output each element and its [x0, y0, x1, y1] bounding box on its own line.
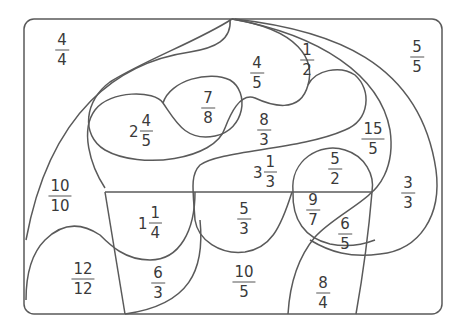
- numerator: 5: [410, 39, 424, 56]
- numerator: 4: [55, 32, 69, 49]
- denominator: 5: [410, 59, 424, 76]
- fraction-label-r15: 97: [306, 192, 320, 229]
- fraction-label-r7: 83: [257, 112, 271, 149]
- numerator: 1: [149, 205, 163, 222]
- fraction-label-r1: 44: [55, 32, 69, 69]
- fraction-stack: 83: [257, 112, 271, 149]
- numerator: 6: [151, 265, 165, 282]
- fraction-label-r5: 78: [201, 90, 215, 127]
- fraction-label-r19: 105: [232, 264, 255, 301]
- denominator: 7: [306, 212, 320, 229]
- fraction-stack: 1010: [48, 178, 71, 215]
- fraction-label-r12: 1010: [48, 178, 71, 215]
- denominator: 3: [151, 285, 165, 302]
- curve-inner-loop: [89, 19, 310, 160]
- fraction-stack: 44: [55, 32, 69, 69]
- denominator: 4: [55, 52, 69, 69]
- fraction-stack: 52: [328, 151, 342, 188]
- fraction-label-r11: 33: [401, 175, 415, 212]
- numerator: 1: [300, 42, 314, 59]
- numerator: 8: [257, 112, 271, 129]
- denominator: 5: [338, 236, 352, 253]
- fraction-label-r14: 53: [237, 201, 251, 238]
- fraction-stack: 1212: [71, 261, 94, 298]
- denominator: 5: [237, 284, 251, 301]
- numerator: 9: [306, 192, 320, 209]
- fraction-stack: 105: [232, 264, 255, 301]
- whole-number: 1: [138, 214, 148, 232]
- numerator: 1: [264, 154, 278, 171]
- fraction-stack: 12: [300, 42, 314, 79]
- denominator: 5: [250, 75, 264, 92]
- fraction-label-r20: 84: [316, 275, 330, 312]
- whole-number: 2: [129, 122, 139, 140]
- fraction-stack: 97: [306, 192, 320, 229]
- fraction-label-r3: 12: [300, 42, 314, 79]
- fraction-label-r9: 313: [253, 154, 277, 191]
- fraction-label-r8: 155: [361, 121, 384, 158]
- denominator: 12: [71, 281, 94, 298]
- numerator: 5: [237, 201, 251, 218]
- denominator: 3: [401, 195, 415, 212]
- denominator: 5: [366, 141, 380, 158]
- fraction-stack: 84: [316, 275, 330, 312]
- numerator: 8: [316, 275, 330, 292]
- fraction-stack: 53: [237, 201, 251, 238]
- fraction-stack: 63: [151, 265, 165, 302]
- denominator: 3: [237, 221, 251, 238]
- denominator: 4: [149, 225, 163, 242]
- fraction-label-r4: 45: [250, 55, 264, 92]
- fraction-stack: 13: [264, 154, 278, 191]
- fraction-label-r6: 245: [129, 113, 153, 150]
- numerator: 3: [401, 175, 415, 192]
- numerator: 6: [338, 216, 352, 233]
- denominator: 2: [328, 171, 342, 188]
- numerator: 15: [361, 121, 384, 138]
- numerator: 7: [201, 90, 215, 107]
- denominator: 4: [316, 295, 330, 312]
- numerator: 4: [250, 55, 264, 72]
- fraction-stack: 65: [338, 216, 352, 253]
- denominator: 3: [257, 132, 271, 149]
- curve-slant-right: [356, 192, 372, 314]
- numerator: 5: [328, 151, 342, 168]
- fraction-label-r16: 65: [338, 216, 352, 253]
- fraction-label-r18: 63: [151, 265, 165, 302]
- fraction-stack: 45: [140, 113, 154, 150]
- numerator: 4: [140, 113, 154, 130]
- fraction-label-r17: 1212: [71, 261, 94, 298]
- fraction-label-r2: 55: [410, 39, 424, 76]
- fraction-stack: 55: [410, 39, 424, 76]
- denominator: 10: [48, 198, 71, 215]
- fraction-stack: 155: [361, 121, 384, 158]
- fraction-label-r10: 52: [328, 151, 342, 188]
- fraction-stack: 33: [401, 175, 415, 212]
- denominator: 2: [300, 62, 314, 79]
- fraction-stack: 14: [149, 205, 163, 242]
- whole-number: 3: [253, 163, 263, 181]
- fraction-stack: 78: [201, 90, 215, 127]
- fraction-label-r13: 114: [138, 205, 162, 242]
- numerator: 10: [48, 178, 71, 195]
- denominator: 5: [140, 133, 154, 150]
- numerator: 12: [71, 261, 94, 278]
- fraction-stack: 45: [250, 55, 264, 92]
- numerator: 10: [232, 264, 255, 281]
- curve-seven-eighths: [88, 76, 242, 188]
- denominator: 3: [264, 174, 278, 191]
- denominator: 8: [201, 110, 215, 127]
